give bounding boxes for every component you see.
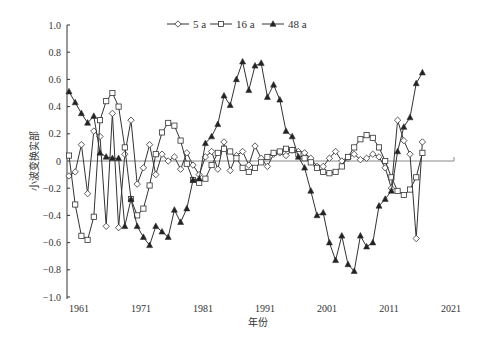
series-16a	[66, 90, 425, 242]
chart-series	[66, 58, 426, 273]
x-axis-label: 年份	[248, 316, 268, 328]
x-tick-label: 2021	[441, 303, 461, 314]
x-tick-label: 2011	[379, 303, 399, 314]
y-tick-label: 0	[56, 156, 61, 167]
y-tick-label: −0.4	[43, 210, 61, 221]
x-tick-label: 1961	[69, 303, 89, 314]
y-tick-label: −0.2	[43, 183, 61, 194]
series-48a	[66, 58, 425, 273]
y-tick-label: −0.8	[43, 264, 61, 275]
x-axis: 1961197119811991200120112021	[69, 303, 461, 314]
x-tick-label: 1981	[193, 303, 213, 314]
y-axis-label: 小波变换实部	[28, 131, 40, 191]
chart-legend: 5 a16 a48 a	[167, 18, 307, 30]
legend-label: 16 a	[236, 18, 255, 30]
wavelet-line-chart: 5 a16 a48 a 1.00.80.60.40.20−0.2−0.4−0.6…	[0, 0, 479, 343]
x-tick-label: 1991	[255, 303, 275, 314]
legend-label: 48 a	[288, 18, 307, 30]
y-tick-label: −1.0	[43, 292, 61, 303]
y-axis: 1.00.80.60.40.20−0.2−0.4−0.6−0.8−1.0	[43, 20, 454, 303]
y-tick-label: 1.0	[49, 20, 62, 31]
y-tick-label: 0.6	[49, 74, 62, 85]
y-tick-label: 0.2	[49, 128, 62, 139]
y-tick-label: −0.6	[43, 237, 61, 248]
y-tick-label: 0.4	[49, 101, 62, 112]
legend-label: 5 a	[193, 18, 206, 30]
x-tick-label: 1971	[131, 303, 151, 314]
x-tick-label: 2001	[317, 303, 337, 314]
y-tick-label: 0.8	[49, 47, 62, 58]
